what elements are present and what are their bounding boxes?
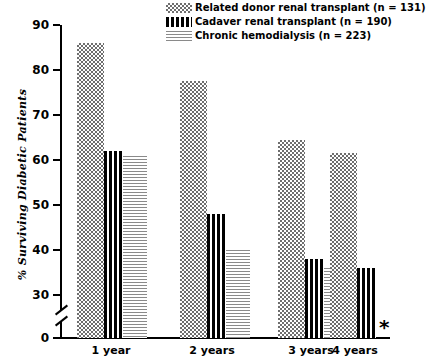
- bar-4-years-series-2: [357, 268, 376, 338]
- y-tick-30: [53, 294, 60, 296]
- y-tick-label-70: 70: [19, 109, 49, 121]
- x-label-2-years: 2 years: [172, 344, 252, 357]
- y-tick-label-40: 40: [19, 244, 49, 256]
- y-tick-40: [53, 249, 60, 251]
- x-label-1-year: 1 year: [71, 344, 151, 357]
- bar-3-years-series-1: [278, 140, 305, 338]
- x-label-4-years: 4 years: [315, 344, 395, 357]
- y-tick-label-60: 60: [19, 154, 49, 166]
- bar-1-year-series-2: [104, 151, 123, 338]
- bar-2-years-series-1: [180, 81, 207, 338]
- y-tick-90: [53, 24, 60, 26]
- y-tick-60: [53, 159, 60, 161]
- y-tick-label-50: 50: [19, 199, 49, 211]
- y-tick-label-80: 80: [19, 64, 49, 76]
- bar-1-year-series-3: [123, 156, 147, 339]
- y-tick-70: [53, 114, 60, 116]
- y-tick-label-0: 0: [19, 332, 49, 344]
- y-axis-line-upper: [60, 25, 62, 310]
- bar-3-years-series-2: [305, 259, 324, 338]
- bar-2-years-series-2: [207, 214, 226, 338]
- y-tick-0: [53, 337, 60, 339]
- y-tick-80: [53, 69, 60, 71]
- missing-data-asterisk: *: [379, 322, 389, 332]
- bar-2-years-series-3: [226, 250, 250, 338]
- bar-1-year-series-1: [77, 43, 104, 338]
- bar-4-years-series-1: [330, 153, 357, 338]
- y-tick-label-30: 30: [19, 289, 49, 301]
- y-tick-50: [53, 204, 60, 206]
- y-tick-label-90: 90: [19, 19, 49, 31]
